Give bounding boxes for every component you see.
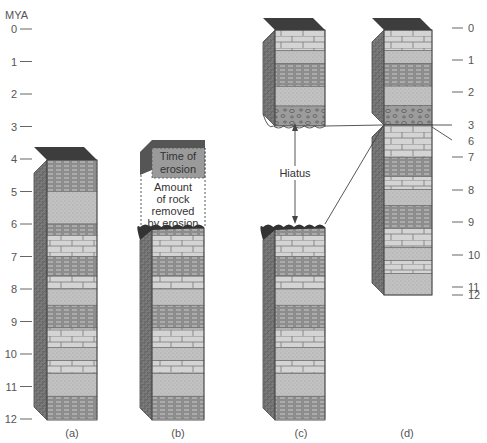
rock-layer-lime (47, 328, 97, 348)
rock-layer-lime (384, 261, 432, 274)
rock-layer-lime (152, 235, 204, 256)
rock-layer-sand (275, 374, 325, 397)
rock-layer-sand (152, 374, 204, 397)
column-c (260, 18, 325, 420)
left-tick-label: 4 (11, 153, 17, 165)
rock-layer-lime (152, 328, 204, 348)
rock-layer-lime (47, 276, 97, 289)
rock-layer-sand (275, 348, 325, 361)
rock-layer-shale (384, 157, 432, 176)
right-tick-label: 7 (468, 151, 474, 163)
column-d (372, 18, 432, 295)
caption-c: (c) (295, 427, 308, 439)
left-axis: MYA 0123456789101112 (5, 9, 32, 425)
left-tick-label: 0 (11, 23, 17, 35)
rock-layer-shale (152, 396, 204, 419)
rock-layer-cong (275, 106, 325, 126)
correlation-line-6 (432, 127, 452, 140)
rock-layer-shale (47, 305, 97, 328)
left-tick-label: 8 (11, 283, 17, 295)
rock-layer-shale (275, 64, 325, 87)
left-tick-label: 5 (11, 186, 17, 198)
caption-d: (d) (400, 427, 413, 439)
rock-layer-shale (47, 396, 97, 419)
rock-layer-shale (384, 64, 432, 87)
rock-layer-lime (275, 235, 325, 256)
rock-layer-cong (384, 106, 432, 125)
rock-layer-sand (275, 51, 325, 64)
column-a (34, 147, 97, 420)
right-tick-label: 10 (468, 249, 480, 261)
amount-removed-label-1: Amount (154, 181, 192, 193)
rock-layer-shale (47, 160, 97, 192)
rock-layer-lime (384, 177, 432, 190)
rock-layer-shale (384, 206, 432, 229)
rock-layer-lime (275, 30, 325, 51)
rock-layer-sand (275, 87, 325, 107)
rock-layer-lime (275, 361, 325, 374)
time-of-erosion-label-2: erosion (160, 163, 196, 175)
right-tick-label: 3 (468, 119, 474, 131)
right-tick-label: 1 (468, 54, 474, 66)
column-b (137, 225, 204, 421)
rock-layer-lime (47, 361, 97, 374)
right-axis: 01236789101112 (452, 22, 480, 301)
rock-layer-sand (384, 190, 432, 206)
rock-layer-sand (47, 348, 97, 361)
rock-layer-lime (275, 328, 325, 348)
right-tick-label: 9 (468, 216, 474, 228)
unconformity-diagram: MYA 0123456789101112 01236789101112 Time… (0, 0, 487, 443)
rock-layer-lime (47, 235, 97, 256)
rock-layer-lime (384, 125, 432, 157)
rock-layer-sand (384, 51, 432, 64)
time-of-erosion-label-1: Time of (160, 150, 197, 162)
amount-removed-label-4: by erosion (148, 217, 199, 229)
rock-layer-sand (384, 86, 432, 105)
caption-a: (a) (65, 427, 78, 439)
right-tick-label: 8 (468, 184, 474, 196)
left-tick-label: 12 (5, 413, 17, 425)
caption-b: (b) (171, 427, 184, 439)
right-tick-label: 12 (468, 289, 480, 301)
correlation-line-top (325, 125, 383, 126)
rock-layer-lime (152, 361, 204, 374)
rock-layer-shale (275, 257, 325, 277)
hiatus-annotation: Hiatus (272, 123, 318, 224)
left-tick-label: 3 (11, 121, 17, 133)
amount-removed-label-2: of rock (156, 193, 190, 205)
right-tick-label: 0 (468, 22, 474, 34)
left-tick-label: 9 (11, 316, 17, 328)
rock-layer-sand (152, 348, 204, 361)
hiatus-arrow-down-icon (292, 216, 298, 224)
left-tick-label: 1 (11, 56, 17, 68)
rock-layer-sand (47, 192, 97, 225)
column-top-cap (372, 18, 432, 30)
rock-layer-sand (275, 289, 325, 305)
rock-layer-lime (384, 30, 432, 51)
hiatus-label: Hiatus (279, 167, 311, 179)
rock-layer-shale (47, 224, 97, 235)
rock-layer-shale (47, 257, 97, 277)
rock-layer-sand (47, 289, 97, 305)
left-tick-label: 10 (5, 348, 17, 360)
column-top-cap (263, 18, 325, 30)
rock-layer-sand (384, 248, 432, 261)
rock-layer-sand (47, 374, 97, 397)
erosion-annotation: Time of erosion Amount of rock removed b… (140, 140, 205, 229)
amount-removed-label-3: removed (152, 205, 195, 217)
rock-layer-shale (152, 257, 204, 277)
left-tick-label: 11 (6, 381, 17, 393)
column-top-cap (34, 147, 97, 160)
rock-layer-sand (384, 274, 432, 295)
rock-layer-shale (152, 305, 204, 328)
rock-layer-shale (275, 396, 325, 419)
right-tick-label: 6 (468, 135, 474, 147)
rock-layer-lime (275, 276, 325, 289)
right-tick-label: 2 (468, 86, 474, 98)
rock-layer-lime (384, 228, 432, 247)
left-tick-label: 7 (11, 251, 17, 263)
axis-title: MYA (5, 9, 29, 21)
rock-layer-lime (152, 276, 204, 289)
rock-layer-shale (275, 305, 325, 328)
rock-layer-sand (152, 289, 204, 305)
